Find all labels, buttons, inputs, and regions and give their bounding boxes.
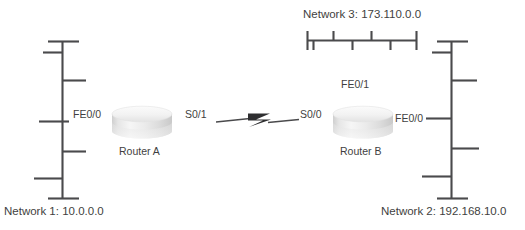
router-a-interface-s0-1-label: S0/1 bbox=[185, 108, 207, 120]
network-2-bus bbox=[422, 41, 479, 199]
network-1-bus bbox=[34, 41, 86, 199]
serial-link bbox=[216, 114, 299, 128]
router-a-top bbox=[112, 106, 172, 122]
network-1-label: Network 1: 10.0.0.0 bbox=[4, 205, 104, 217]
router-b-top bbox=[333, 106, 393, 122]
network-2-label: Network 2: 192.168.10.0 bbox=[381, 205, 506, 217]
router-b[interactable] bbox=[333, 106, 393, 138]
lightning-bolt-icon bbox=[248, 114, 271, 128]
router-a-interface-fe0-0-label: FE0/0 bbox=[73, 108, 101, 120]
router-b-interface-fe0-1-label: FE0/1 bbox=[341, 78, 369, 90]
network-3-label: Network 3: 173.110.0.0 bbox=[303, 8, 421, 20]
router-b-interface-s0-0-label: S0/0 bbox=[300, 108, 322, 120]
network-3-bus bbox=[307, 31, 417, 50]
router-b-interface-fe0-0-label: FE0/0 bbox=[395, 112, 423, 124]
router-b-label: Router B bbox=[340, 145, 381, 157]
router-a[interactable] bbox=[112, 106, 172, 138]
router-a-label: Router A bbox=[119, 145, 160, 157]
